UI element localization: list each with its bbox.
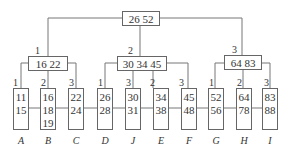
leaf-label: 2: [41, 78, 46, 88]
leaf-label: 3: [179, 78, 184, 88]
internal-label: 3: [232, 45, 237, 55]
leaf-name: I: [262, 135, 278, 146]
leaf-node: 2224: [68, 88, 84, 130]
internal-node: 64 83: [224, 55, 262, 70]
leaf-node: 4548: [181, 88, 197, 130]
leaf-name: F: [181, 135, 197, 146]
leaf-name: C: [68, 135, 84, 146]
leaf-label: 2: [237, 78, 242, 88]
leaf-label: 1: [13, 78, 18, 88]
leaf-name: A: [13, 135, 29, 146]
leaf-label: 3: [126, 78, 131, 88]
internal-node: 30 34 45: [117, 56, 167, 71]
root-node: 26 52: [122, 11, 160, 26]
leaf-label: 3: [264, 78, 269, 88]
leaf-label: 3: [69, 78, 74, 88]
internal-label: 1: [35, 46, 40, 56]
leaf-node: 3438: [153, 88, 169, 130]
leaf-node: 3031: [125, 88, 141, 130]
leaf-name: E: [153, 135, 169, 146]
leaf-node: 1115: [13, 88, 29, 130]
leaf-node: 8388: [262, 88, 278, 130]
leaf-name: J: [125, 135, 141, 146]
leaf-node: 2628: [97, 88, 113, 130]
leaf-name: D: [97, 135, 113, 146]
leaf-label: 1: [209, 78, 214, 88]
leaf-name: B: [40, 135, 56, 146]
leaf-label: 2: [150, 78, 155, 88]
leaf-name: H: [236, 135, 252, 146]
leaf-label: 1: [98, 78, 103, 88]
leaf-node: 6478: [236, 88, 252, 130]
leaf-node: 5256: [208, 88, 224, 130]
leaf-name: G: [208, 135, 224, 146]
internal-node: 16 22: [28, 56, 68, 71]
leaf-node: 161819: [40, 88, 56, 130]
internal-label: 2: [128, 46, 133, 56]
